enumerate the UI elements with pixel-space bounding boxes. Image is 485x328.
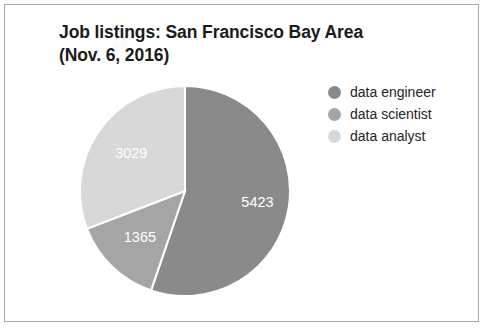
pie-chart: 542313653029 [79,85,291,297]
legend-label-data-scientist: data scientist [350,107,432,121]
pie-slice-value-data-scientist: 1365 [124,229,156,245]
pie-slice-value-data-analyst: 3029 [115,145,147,161]
legend-item-data-scientist[interactable]: data scientist [328,103,478,125]
pie-chart-svg: 542313653029 [79,85,291,297]
chart-title: Job listings: San Francisco Bay Area (No… [59,21,449,67]
legend-item-data-analyst[interactable]: data analyst [328,125,478,147]
legend-label-data-engineer: data engineer [350,85,436,99]
chart-title-line-1: Job listings: San Francisco Bay Area [59,21,449,44]
chart-frame: Job listings: San Francisco Bay Area (No… [4,4,479,322]
chart-screenshot: Job listings: San Francisco Bay Area (No… [0,0,485,328]
chart-legend: data engineer data scientist data analys… [328,81,478,147]
legend-swatch-icon-data-analyst [328,130,341,143]
legend-swatch-icon-data-engineer [328,86,341,99]
legend-item-data-engineer[interactable]: data engineer [328,81,478,103]
legend-label-data-analyst: data analyst [350,129,426,143]
pie-slice-value-data-engineer: 5423 [241,194,273,210]
chart-title-line-2: (Nov. 6, 2016) [59,44,449,67]
pie-slice-group [80,86,290,296]
legend-swatch-icon-data-scientist [328,108,341,121]
